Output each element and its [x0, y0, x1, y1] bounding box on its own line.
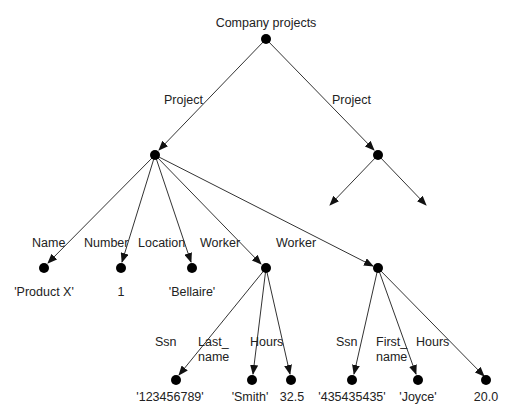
root-title: Company projects: [216, 16, 317, 31]
edge-label-project-right: Project: [332, 93, 371, 108]
edge-label-location: Location: [138, 236, 185, 251]
edge-label-first-name-a: First_: [376, 335, 407, 350]
leaf-value-hours-1: 32.5: [280, 390, 304, 405]
edge-label-hours-2: Hours: [416, 335, 449, 350]
edge-label-worker-2: Worker: [276, 236, 316, 251]
leaf-value-hours-2: 20.0: [474, 390, 498, 405]
edge-label-first-name-b: name: [376, 350, 407, 365]
edge-label-ssn-1: Ssn: [155, 335, 177, 350]
edge-label-number: Number: [84, 236, 128, 251]
leaf-value-last-name: 'Smith': [232, 390, 269, 405]
leaf-value-first-name: 'Joyce': [399, 390, 436, 405]
edge-label-last-name-a: Last_: [198, 335, 229, 350]
edge-label-ssn-2: Ssn: [336, 335, 358, 350]
leaf-value-ssn-1: '123456789': [136, 390, 203, 405]
edge-label-last-name-b: name: [198, 350, 229, 365]
tree-edges: [0, 0, 514, 414]
edge-label-name: Name: [32, 236, 65, 251]
leaf-value-number: 1: [118, 285, 125, 300]
edge-label-hours-1: Hours: [250, 335, 283, 350]
leaf-value-ssn-2: '435435435': [318, 390, 385, 405]
leaf-value-location: 'Bellaire': [169, 285, 215, 300]
edge-label-worker-1: Worker: [200, 236, 240, 251]
leaf-value-product: 'Product X': [14, 285, 74, 300]
edge-label-project-left: Project: [164, 93, 203, 108]
